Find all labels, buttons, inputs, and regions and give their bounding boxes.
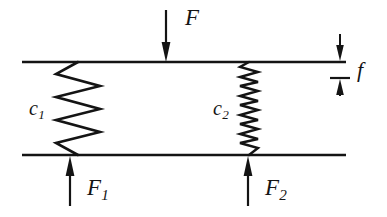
deflection-upper-arrowhead <box>336 45 344 61</box>
deflection-lower-arrowhead <box>336 79 344 95</box>
force-F-arrowhead <box>162 42 171 62</box>
spring-c2 <box>240 62 258 155</box>
spring-c1 <box>56 62 100 155</box>
label-applied-force: F <box>185 6 199 29</box>
label-spring-constant-c1: c1 <box>29 98 44 118</box>
force-F2-arrowhead <box>244 156 253 176</box>
label-reaction-force-f1: F1 <box>87 176 109 199</box>
force-F1-arrowhead <box>66 156 75 176</box>
label-F2-symbol: F <box>265 175 279 200</box>
label-F1-symbol: F <box>87 175 101 200</box>
label-c2-symbol: c <box>213 97 222 119</box>
label-F1-subscript: 1 <box>101 186 109 203</box>
spring-system-diagram: F f c1 c2 F1 F2 <box>0 0 387 217</box>
label-c2-subscript: 2 <box>222 107 229 122</box>
label-F2-subscript: 2 <box>279 186 287 203</box>
diagram-canvas <box>0 0 387 217</box>
label-c1-subscript: 1 <box>38 107 45 122</box>
label-reaction-force-f2: F2 <box>265 176 287 199</box>
label-spring-constant-c2: c2 <box>213 98 228 118</box>
label-c1-symbol: c <box>29 97 38 119</box>
label-deflection: f <box>357 59 363 81</box>
